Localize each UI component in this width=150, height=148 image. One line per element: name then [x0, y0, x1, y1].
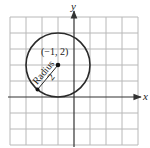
y-axis-label: y — [70, 0, 76, 12]
circle-point — [36, 88, 40, 92]
center-point — [56, 63, 61, 68]
center-label: (−1, 2) — [41, 46, 68, 58]
x-axis-label: x — [142, 90, 148, 102]
coordinate-plane: x y (−1, 2) Radius 2 — [0, 0, 150, 148]
